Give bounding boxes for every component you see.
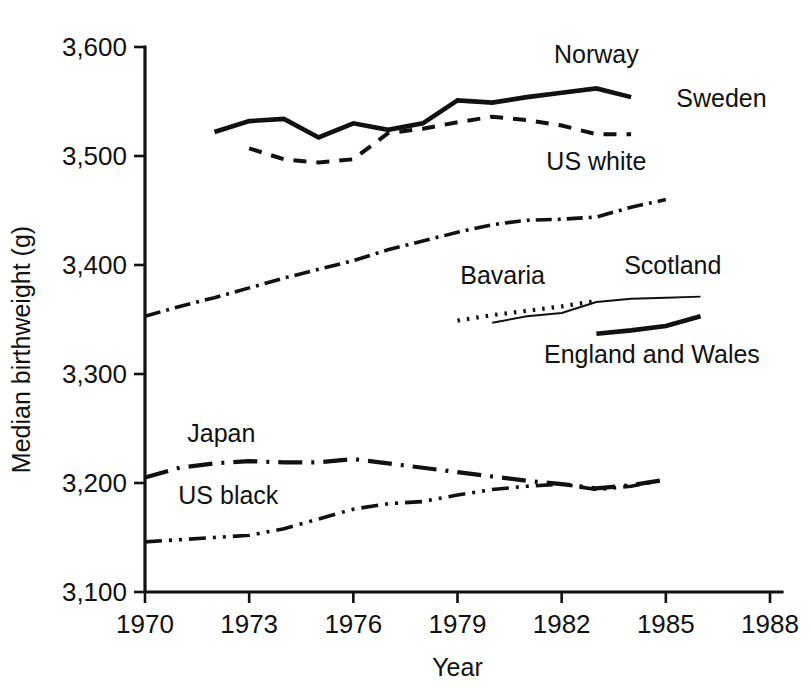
series-annotations-layer: NorwaySwedenUS whiteBavariaScotlandEngla… <box>178 40 766 508</box>
series-label-bavaria: Bavaria <box>460 261 545 289</box>
y-tick-label: 3,400 <box>62 250 127 280</box>
y-tick-label: 3,300 <box>62 359 127 389</box>
series-label-us-black: US black <box>178 481 279 509</box>
x-tick-label: 1970 <box>116 609 174 639</box>
x-tick-label: 1973 <box>220 609 278 639</box>
series-line-bavaria <box>458 301 597 321</box>
y-axis-title: Median birthweight (g) <box>7 226 35 473</box>
y-tick-label: 3,600 <box>62 32 127 62</box>
x-tick-label: 1979 <box>429 609 487 639</box>
x-tick-label: 1976 <box>324 609 382 639</box>
series-label-us-white: US white <box>546 147 646 175</box>
series-label-sweden: Sweden <box>676 84 766 112</box>
y-tick-label: 3,500 <box>62 141 127 171</box>
x-tick-label: 1982 <box>533 609 591 639</box>
chart-canvas: 3,1003,2003,3003,4003,5003,6001970197319… <box>0 0 811 688</box>
x-tick-label: 1985 <box>637 609 695 639</box>
chart-figure: 3,1003,2003,3003,4003,5003,6001970197319… <box>0 0 811 688</box>
x-tick-label: 1988 <box>741 609 799 639</box>
y-tick-label: 3,100 <box>62 577 127 607</box>
series-line-england-and-wales <box>596 316 700 333</box>
series-label-norway: Norway <box>554 40 639 68</box>
x-axis-title: Year <box>432 653 483 681</box>
series-line-us-white <box>145 200 666 317</box>
y-tick-label: 3,200 <box>62 468 127 498</box>
series-label-england-and-wales: England and Wales <box>544 340 760 368</box>
series-label-scotland: Scotland <box>624 251 721 279</box>
tick-labels-layer: 3,1003,2003,3003,4003,5003,6001970197319… <box>62 32 799 639</box>
series-label-japan: Japan <box>187 419 255 447</box>
